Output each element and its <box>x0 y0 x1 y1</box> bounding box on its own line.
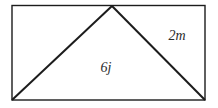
triangle-right-edge <box>112 6 205 100</box>
triangle-interior-label: 6j <box>101 60 112 75</box>
rectangle-outline <box>12 6 205 101</box>
triangle-left-edge <box>12 6 112 100</box>
diagram-canvas: 2m 6j <box>0 0 218 108</box>
slant-side-length-label: 2m <box>168 28 185 43</box>
geometry-diagram: 2m 6j <box>0 0 218 108</box>
